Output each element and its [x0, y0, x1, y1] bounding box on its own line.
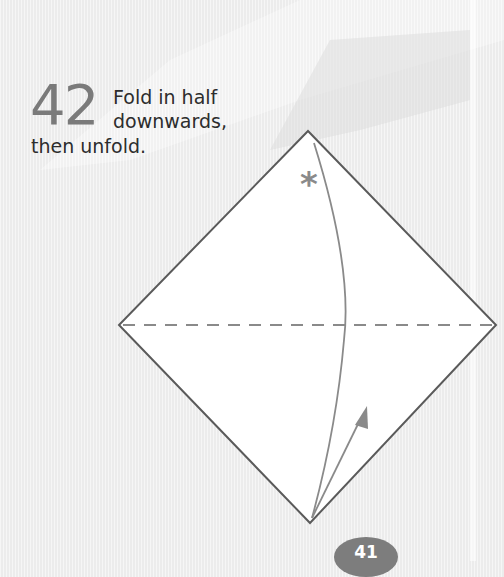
svg-text:*: * — [300, 164, 318, 204]
asterisk-icon: * — [300, 164, 318, 204]
page-number: 41 — [348, 542, 384, 562]
